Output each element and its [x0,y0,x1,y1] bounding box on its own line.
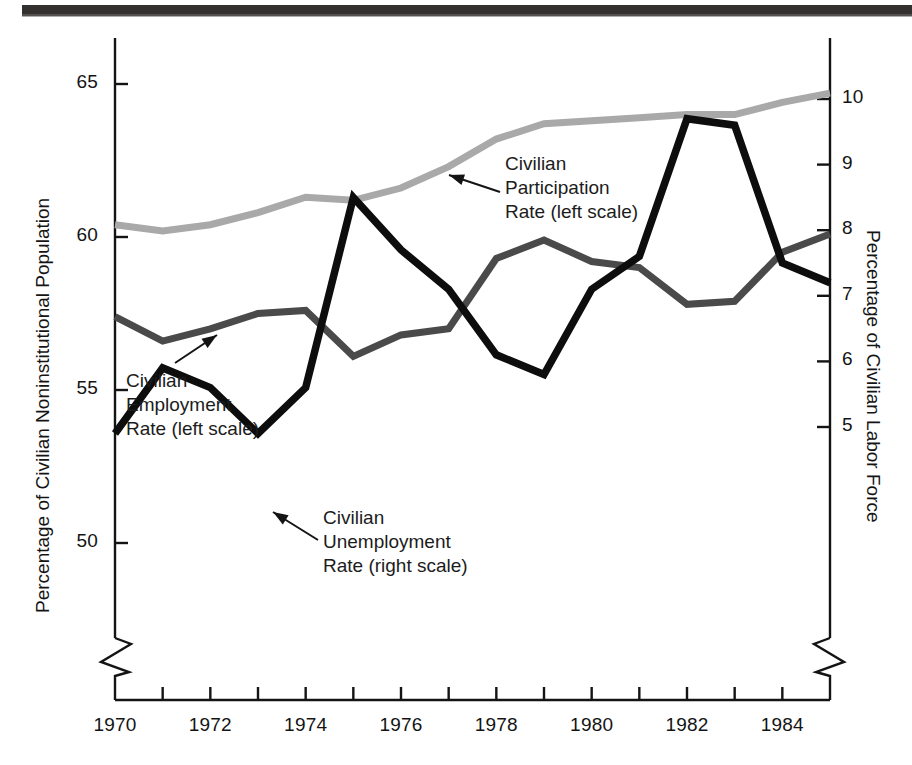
x-axis-tick-label: 1982 [652,714,722,736]
x-axis-tick-label: 1974 [271,714,341,736]
x-axis-tick-label: 1976 [366,714,436,736]
left-axis-tick-label: 50 [58,530,98,552]
left-axis-tick-label: 65 [58,71,98,93]
x-axis-tick-label: 1972 [175,714,245,736]
annotation-employment-rate: Civilian Employment Rate (left scale) [126,369,259,441]
chart-figure: 50556065 5678910 19701972197419761978198… [0,0,912,765]
annotation-leaders [175,175,500,541]
right-axis-title: Percentage of Civilian Labor Force [862,230,884,523]
annotation-participation-rate: Civilian Participation Rate (left scale) [505,152,638,224]
left-axis-tick-label: 55 [58,377,98,399]
left-axis-title: Percentage of Civilian Noninstitutional … [32,198,54,613]
x-axis-tick-label: 1980 [557,714,627,736]
x-axis-tick-label: 1984 [747,714,817,736]
left-axis-tick-label: 60 [58,224,98,246]
x-axis-tick-label: 1978 [461,714,531,736]
right-axis-tick-label: 9 [842,152,882,174]
annotation-unemployment-rate: Civilian Unemployment Rate (right scale) [323,506,468,578]
x-axis-tick-label: 1970 [80,714,150,736]
right-axis-tick-label: 10 [842,86,882,108]
